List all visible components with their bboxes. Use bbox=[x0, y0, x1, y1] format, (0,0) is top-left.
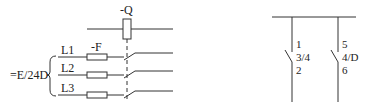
contact-l3 bbox=[124, 91, 135, 98]
contact-2-bottom: 6 bbox=[342, 64, 348, 76]
phase-label-l1: L1 bbox=[61, 43, 74, 57]
contact-2-top: 5 bbox=[342, 38, 348, 50]
phase-brace bbox=[47, 56, 56, 96]
contact-l1 bbox=[124, 53, 135, 60]
contact-1-bottom: 2 bbox=[296, 64, 302, 76]
fuse-l1 bbox=[87, 54, 107, 60]
breaker-label: -Q bbox=[120, 3, 133, 17]
fuse-l3 bbox=[87, 92, 107, 98]
contact-2-ref: 4/D bbox=[342, 51, 359, 63]
contact-1 bbox=[285, 50, 292, 62]
electrical-schematic: -Q -F L1 L2 L3 =E/24D 1 3/4 2 5 4/D 6 bbox=[0, 0, 366, 112]
reference-label: =E/24D bbox=[10, 68, 48, 82]
contact-1-top: 1 bbox=[296, 38, 302, 50]
fuse-l2 bbox=[87, 72, 107, 78]
breaker-coil-symbol bbox=[123, 19, 131, 39]
phase-label-l2: L2 bbox=[61, 61, 74, 75]
phase-label-l3: L3 bbox=[61, 81, 74, 95]
fuse-label: -F bbox=[91, 40, 102, 54]
contact-2 bbox=[331, 50, 338, 62]
contact-1-ref: 3/4 bbox=[296, 51, 311, 63]
contact-l2 bbox=[124, 71, 135, 78]
